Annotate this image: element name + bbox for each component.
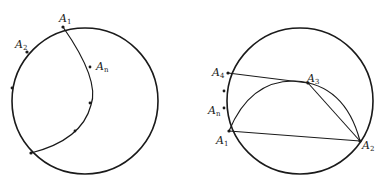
right-figure: A4 A3 An A1 A2 xyxy=(207,28,374,174)
segment-a3-a2 xyxy=(308,83,360,141)
label-a2: A2 xyxy=(361,139,374,153)
point-dot xyxy=(74,130,77,133)
label-a1: A1 xyxy=(215,134,228,148)
diagram-canvas: A1 A2 An A4 A3 An A1 A2 xyxy=(0,0,381,190)
left-inner-arc xyxy=(31,27,93,153)
label-a1: A1 xyxy=(58,12,71,26)
left-figure: A1 A2 An xyxy=(11,12,158,174)
label-an: An xyxy=(207,104,221,118)
point-an xyxy=(223,107,226,110)
point-a4 xyxy=(226,71,229,74)
label-an: An xyxy=(95,60,109,74)
right-outer-circle xyxy=(227,28,373,174)
label-a2: A2 xyxy=(14,38,27,52)
point-an xyxy=(89,66,92,69)
point-dot xyxy=(223,90,226,93)
segment-a1-a2 xyxy=(229,131,360,141)
label-a4: A4 xyxy=(211,66,225,80)
point-dot xyxy=(11,87,14,90)
point-a1 xyxy=(227,129,230,132)
point-dot xyxy=(89,102,92,105)
point-a1 xyxy=(61,25,64,28)
point-end xyxy=(29,151,32,154)
label-a3: A3 xyxy=(306,72,319,86)
segment-a4-a3 xyxy=(228,73,308,83)
